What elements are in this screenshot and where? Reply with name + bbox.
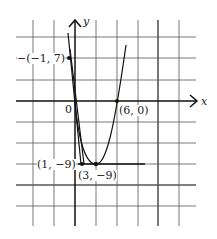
point-label-3-neg9: (3, −9) bbox=[78, 170, 117, 181]
point-label-1-neg9: (1, −9) bbox=[37, 159, 76, 170]
point-label-neg1-7: −(−1, 7) bbox=[17, 53, 65, 64]
axes bbox=[16, 20, 197, 226]
grid bbox=[16, 20, 196, 226]
origin-label: 0 bbox=[65, 104, 72, 115]
graph-canvas bbox=[0, 0, 217, 239]
x-axis-label: x bbox=[201, 96, 207, 107]
curves bbox=[68, 33, 145, 164]
tangent-line bbox=[70, 49, 84, 164]
point-label-6-0: (6, 0) bbox=[119, 105, 149, 116]
y-axis-label: y bbox=[83, 16, 89, 27]
